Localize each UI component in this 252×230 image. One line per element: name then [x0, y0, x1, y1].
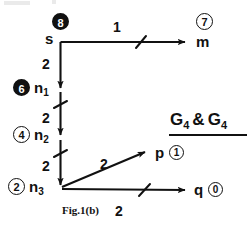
edge-weight-n2-n3: 2: [42, 159, 50, 173]
edge-weight-s-n1: 2: [42, 57, 50, 71]
node-label-n1: n1: [34, 80, 49, 98]
figure-caption: Fig.1(b): [62, 204, 99, 216]
node-tag-m[interactable]: 7: [196, 13, 213, 30]
node-tag-s[interactable]: 8: [52, 13, 69, 30]
edge-weight-n1-n2: 2: [42, 111, 50, 125]
node-label-s: s: [45, 31, 53, 46]
node-tag-n1[interactable]: 6: [13, 79, 30, 96]
node-label-p: p: [155, 145, 164, 160]
node-label-n2-sub: 2: [43, 134, 49, 145]
graph-title-g1: G: [170, 110, 183, 129]
node-label-n2: n2: [34, 127, 49, 145]
node-label-n3-base: n: [29, 178, 38, 195]
graph-title-g2-sub: 4: [221, 119, 227, 131]
node-tag-q[interactable]: 0: [208, 182, 223, 197]
graph-title-amp: &: [189, 110, 207, 129]
node-tag-n2[interactable]: 4: [13, 126, 30, 143]
edge-weight-s-m: 1: [113, 20, 121, 34]
node-tag-p[interactable]: 1: [169, 145, 184, 160]
node-label-m: m: [196, 34, 209, 49]
graph-title-g2: G: [208, 110, 221, 129]
node-label-n2-base: n: [34, 126, 43, 143]
graph-title-underline: [169, 134, 247, 136]
graph-pair-title: G4&G4: [170, 110, 227, 131]
figure-container: 8 s 7 m 6 n1 4 n2 2 n3 p 1 q 0 1 2 2 2 2…: [0, 0, 252, 230]
node-tag-n3[interactable]: 2: [8, 178, 25, 195]
node-label-n3: n3: [29, 179, 44, 197]
node-label-n3-sub: 3: [38, 186, 44, 197]
node-label-n1-sub: 1: [43, 87, 49, 98]
edge-n3-to-q: [62, 189, 185, 190]
edge-weight-n3-q: 2: [115, 204, 123, 218]
edge-weight-n3-p: 2: [100, 157, 108, 171]
node-label-n1-base: n: [34, 79, 43, 96]
node-label-q: q: [194, 182, 203, 197]
